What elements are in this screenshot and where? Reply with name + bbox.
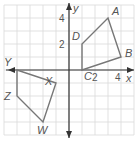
vertex-label-a: A — [111, 5, 119, 17]
vertex-label-b: B — [125, 47, 132, 59]
coordinate-plane: 2 4 2 4 x y ABCDXYZW — [0, 0, 138, 145]
y-axis-arrow-down-icon — [66, 131, 72, 138]
vertex-label-d: D — [72, 30, 80, 42]
x-axis-label: x — [125, 72, 132, 84]
axes — [6, 3, 134, 138]
y-tick-4: 4 — [59, 13, 65, 24]
vertex-label-y: Y — [4, 56, 12, 68]
vertex-label-x: X — [44, 75, 53, 87]
x-tick-4: 4 — [115, 72, 121, 83]
y-axis-label: y — [72, 2, 80, 14]
vertex-label-w: W — [37, 124, 49, 136]
y-axis-arrow-up-icon — [66, 3, 72, 10]
vertex-label-c: C — [84, 70, 92, 82]
vertex-label-z: Z — [3, 90, 12, 102]
x-tick-2: 2 — [92, 72, 98, 83]
y-tick-2: 2 — [59, 39, 65, 50]
